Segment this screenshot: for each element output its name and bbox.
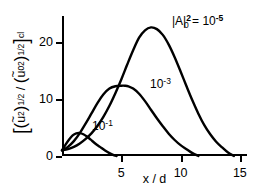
curve-annotation-1-exponent: -5 [216,13,224,23]
y-axis-label-numerator-close-paren: ) [11,105,31,111]
y-axis-label-numerator-variable: u~ [14,116,28,123]
y-axis-label-open-bracket: [ [10,129,33,135]
curve-annotation-amplitude-1e-3: 10-3 [150,76,171,91]
y-axis-label-denominator-close-paren: ) [11,55,31,61]
curve-annotation-3-text: 10 [92,119,105,133]
figure-chart-centerline-rms-velocity: [(u~2)1/2 / (u~02)1/2]cl 0 10 20 5 10 15… [0,0,265,191]
y-axis-label-close-bracket: ] [10,38,33,44]
curve-annotation-2-exponent: -3 [163,76,171,86]
curve-annotation-3-exponent: -1 [105,118,113,128]
y-axis-label-numerator-open-paren: ( [11,123,31,129]
y-axis-label-subscript-cl: cl [16,32,26,38]
y-axis-label-denominator-variable: u~ [14,71,28,78]
y-axis-label-divider: / [14,83,28,93]
y-axis-label-numerator-power: 1/2 [16,94,26,106]
x-axis-tick-15 [240,156,242,162]
x-axis-spine [62,154,247,156]
y-axis-label-denominator-power: 1/2 [16,44,26,56]
y-axis-ticklabel-20: 20 [39,35,53,49]
tilde-accent-icon-denominator: ~ [8,71,20,78]
y-axis-tick-20 [56,42,62,44]
curve-annotation-1-equals-text: = 10 [192,14,216,28]
x-axis-tick-10 [181,156,183,162]
y-axis-label-container: [(u~2)1/2 / (u~02)1/2]cl [0,0,40,165]
x-axis-label: x / d [62,172,247,186]
x-axis-tick-5 [121,156,123,162]
y-axis-ticklabel-10: 10 [39,92,53,106]
curve-annotation-amplitude-1e-5: |A|20 = 10-5 [172,13,223,30]
y-axis-label: [(u~2)1/2 / (u~02)1/2]cl [6,18,36,148]
y-axis-label-denominator-open-paren: ( [11,78,31,84]
curve-annotation-amplitude-1e-1: 10-1 [92,118,113,133]
y-axis-tick-10 [56,99,62,101]
tilde-accent-icon: ~ [8,116,20,123]
y-axis-ticklabel-0: 0 [46,149,53,163]
y-axis-spine [62,16,64,156]
y-axis-label-denominator-exponent: 2 [16,61,26,66]
y-axis-tick-0 [56,156,62,158]
curve-annotation-2-text: 10 [150,77,163,91]
